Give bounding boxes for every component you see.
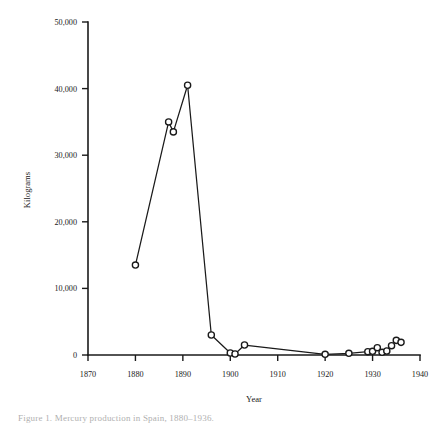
- y-axis-ticks: [82, 22, 88, 355]
- y-tick-label: 10,000: [54, 284, 77, 293]
- data-point-marker: [185, 82, 191, 88]
- y-tick-label: 50,000: [54, 18, 77, 27]
- y-axis-title: Kilograms: [22, 171, 32, 208]
- data-point-marker: [241, 342, 247, 348]
- data-series-line: [135, 85, 401, 354]
- y-tick-label: 30,000: [54, 151, 77, 160]
- data-point-marker: [384, 348, 390, 354]
- data-point-marker: [232, 351, 238, 357]
- x-tick-label: 1880: [127, 370, 143, 379]
- data-point-marker: [322, 351, 328, 357]
- x-tick-label: 1910: [270, 370, 286, 379]
- data-point-marker: [208, 332, 214, 338]
- x-tick-label: 1870: [80, 370, 96, 379]
- data-point-marker: [166, 119, 172, 125]
- y-axis-tick-labels: 010,00020,00030,00040,00050,000: [54, 18, 77, 360]
- data-point-marker: [346, 350, 352, 356]
- data-point-marker: [398, 339, 404, 345]
- x-tick-label: 1930: [364, 370, 380, 379]
- x-axis-title: Year: [246, 394, 262, 404]
- x-tick-label: 1900: [222, 370, 238, 379]
- x-axis-tick-labels: 18701880189019001910192019301940: [80, 370, 428, 379]
- x-axis-ticks: [88, 355, 420, 361]
- figure-caption: Figure 1. Mercury production in Spain, 1…: [18, 413, 214, 423]
- x-tick-label: 1890: [175, 370, 191, 379]
- data-point-marker: [132, 262, 138, 268]
- x-tick-label: 1940: [412, 370, 428, 379]
- data-point-marker: [388, 343, 394, 349]
- y-tick-label: 0: [73, 351, 77, 360]
- y-tick-label: 40,000: [54, 85, 77, 94]
- data-point-marker: [170, 129, 176, 135]
- data-point-markers: [132, 82, 404, 357]
- x-tick-label: 1920: [317, 370, 333, 379]
- y-tick-label: 20,000: [54, 218, 77, 227]
